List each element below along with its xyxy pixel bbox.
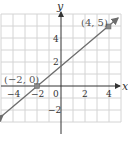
x-tick-2: 2	[82, 89, 88, 99]
y-tick-minus2: −2	[48, 105, 61, 115]
y-tick-4: 4	[53, 34, 59, 44]
coordinate-plane: x y −4 −2 0 2 4 4 2 −2 (4, 5) (−2, 0)	[0, 0, 128, 143]
x-tick-0: 0	[53, 89, 59, 99]
y-tick-2: 2	[53, 57, 59, 67]
y-axis-label: y	[56, 0, 64, 13]
point-label-minus2-0: (−2, 0)	[4, 74, 39, 85]
x-axis-label: x	[122, 80, 128, 93]
x-tick-4: 4	[106, 89, 112, 99]
x-tick-minus4: −4	[7, 89, 21, 99]
point-label-4-5: (4, 5)	[81, 17, 108, 28]
